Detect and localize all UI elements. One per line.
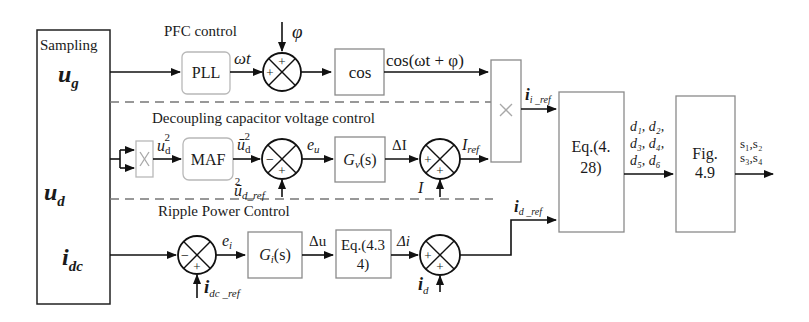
label-switch-2: s₃,s₄	[740, 150, 763, 165]
label-I-ref: Iref	[461, 136, 481, 155]
pfc-sum-junction: + +	[263, 53, 301, 91]
svg-text:+: +	[193, 259, 200, 274]
label-ud-ref: ūd_ref2	[234, 175, 267, 201]
signal-ug: u	[58, 61, 71, 87]
svg-text:4.9: 4.9	[695, 164, 715, 181]
multiplier-block	[491, 60, 521, 162]
label-delta-u: Δu	[309, 233, 327, 249]
label-duty-3: d₅, d₆	[630, 153, 661, 168]
svg-text:−: −	[181, 248, 189, 263]
ripple-current-sum-junction: + +	[420, 235, 460, 275]
signal-ud: u	[44, 179, 57, 205]
sampling-block: Sampling ug ud idc	[37, 30, 110, 304]
svg-text:Eq.(4.3: Eq.(4.3	[341, 237, 385, 254]
label-duty-1: d₁, d₂,	[630, 119, 664, 134]
svg-text:Gi(s): Gi(s)	[259, 246, 291, 265]
label-omega-t: ωt	[234, 49, 252, 68]
svg-text:+: +	[436, 259, 443, 274]
section-pfc-control: PFC control	[164, 23, 237, 39]
svg-text:−: −	[266, 152, 274, 167]
label-duty-2: d₃, d₄,	[630, 136, 664, 151]
label-cos-out: cos(ωt + φ)	[386, 51, 464, 70]
label-delta-I: ΔI	[392, 137, 407, 153]
svg-text:+: +	[278, 54, 285, 69]
voltage-error-sum-junction: − +	[262, 139, 302, 179]
svg-text:4): 4)	[357, 256, 370, 273]
label-delta-i: Δi	[396, 233, 410, 249]
svg-text:+: +	[424, 248, 431, 263]
current-ref-sum-junction: + +	[420, 139, 460, 179]
label-idc-ref: idc _ref	[204, 276, 242, 299]
control-block-diagram: Sampling ug ud idc PFC control Decouplin…	[0, 0, 809, 322]
label-I: I	[417, 179, 424, 196]
label-ud-squared: ud2	[157, 131, 171, 156]
sampling-title: Sampling	[40, 37, 98, 53]
svg-text:+: +	[266, 65, 273, 80]
svg-text:+: +	[424, 152, 431, 167]
square-multiplier-block	[136, 141, 153, 177]
label-id-ref: id _ref	[514, 197, 543, 217]
ripple-error-sum-junction: − +	[178, 236, 216, 274]
label-ei: ei	[222, 232, 232, 251]
svg-text:Fig.: Fig.	[692, 145, 717, 163]
label-id: id	[418, 274, 429, 296]
svg-text:+: +	[278, 163, 285, 178]
svg-text:28): 28)	[580, 159, 601, 177]
label-switch-1: s₁,s₂	[740, 136, 762, 151]
svg-text:Gv(s): Gv(s)	[343, 151, 376, 170]
label-ii-ref: ii _ref	[525, 85, 552, 105]
section-decoupling-control: Decoupling capacitor voltage control	[152, 110, 375, 126]
svg-text:PLL: PLL	[192, 64, 220, 81]
svg-text:cos: cos	[349, 63, 372, 82]
svg-text:MAF: MAF	[191, 151, 226, 168]
label-phi: φ	[292, 21, 303, 42]
section-ripple-control: Ripple Power Control	[158, 203, 290, 219]
svg-text:Eq.(4.: Eq.(4.	[571, 138, 610, 156]
label-eu: eu	[307, 136, 320, 155]
svg-text:+: +	[436, 163, 443, 178]
label-ud-bar-squared: ūd2	[237, 130, 251, 155]
